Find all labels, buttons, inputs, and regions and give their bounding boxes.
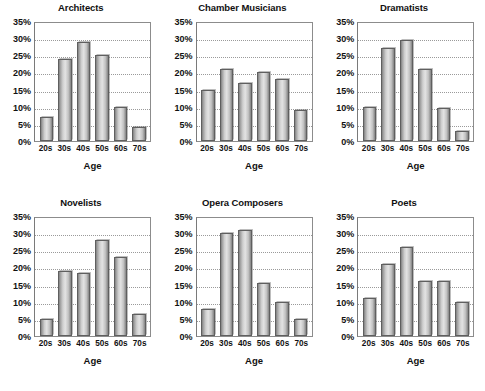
y-tick-label: 35% <box>336 213 354 222</box>
bar-30s[interactable] <box>58 59 72 141</box>
bar-50s[interactable] <box>418 69 432 141</box>
x-tick-label: 40s <box>238 339 252 348</box>
x-axis-labels-chamber-musicians: 20s30s40s50s60s70s <box>196 144 313 153</box>
bar-slot <box>400 40 414 141</box>
bar-20s[interactable] <box>40 117 54 141</box>
x-tick-label: 50s <box>257 339 271 348</box>
bar-20s[interactable] <box>201 309 215 336</box>
plot-area-chamber-musicians <box>196 22 313 142</box>
chart-panel-opera-composers: Opera Composers0%5%10%15%20%25%30%35%20s… <box>162 195 324 391</box>
plot-area-dramatists <box>357 22 474 142</box>
x-axis-title-novelists: Age <box>34 355 151 366</box>
bar-40s[interactable] <box>238 83 252 141</box>
x-tick-label: 60s <box>114 339 128 348</box>
y-tick-label: 20% <box>175 69 193 78</box>
bar-70s[interactable] <box>455 302 469 336</box>
x-tick-label: 30s <box>57 339 71 348</box>
chart-panel-poets: Poets0%5%10%15%20%25%30%35%20s30s40s50s6… <box>323 195 485 391</box>
bar-70s[interactable] <box>132 314 146 336</box>
y-tick-label: 20% <box>13 69 31 78</box>
bar-30s[interactable] <box>381 48 395 141</box>
bar-40s[interactable] <box>400 40 414 141</box>
x-axis-title-dramatists: Age <box>357 160 474 171</box>
plot-wrapper-novelists: 0%5%10%15%20%25%30%35%20s30s40s50s60s70s… <box>0 211 162 339</box>
x-tick-label: 30s <box>57 144 71 153</box>
bar-slot <box>400 247 414 336</box>
x-tick-label: 20s <box>362 144 376 153</box>
y-tick-label: 5% <box>18 120 31 129</box>
bar-20s[interactable] <box>363 298 377 336</box>
bar-70s[interactable] <box>294 319 308 336</box>
bar-slot <box>40 117 54 141</box>
x-tick-label: 70s <box>294 339 308 348</box>
bar-60s[interactable] <box>114 257 128 336</box>
y-tick-label: 20% <box>336 69 354 78</box>
x-tick-label: 20s <box>200 339 214 348</box>
bar-50s[interactable] <box>418 281 432 336</box>
y-tick-label: 20% <box>13 264 31 273</box>
bar-60s[interactable] <box>275 79 289 141</box>
bar-slot <box>455 131 469 141</box>
bar-slot <box>238 230 252 336</box>
bar-20s[interactable] <box>363 107 377 141</box>
bar-slot <box>294 319 308 336</box>
y-tick-label: 30% <box>175 35 193 44</box>
bar-slot <box>418 69 432 141</box>
bar-40s[interactable] <box>77 42 91 141</box>
bar-30s[interactable] <box>58 271 72 336</box>
bar-slot <box>363 107 377 141</box>
x-tick-label: 60s <box>437 144 451 153</box>
bar-slot <box>77 273 91 336</box>
plot-area-novelists <box>34 217 151 337</box>
y-tick-label: 0% <box>180 138 193 147</box>
bar-30s[interactable] <box>220 69 234 141</box>
bar-60s[interactable] <box>114 107 128 141</box>
bar-60s[interactable] <box>437 281 451 336</box>
bar-20s[interactable] <box>201 90 215 141</box>
x-tick-label: 60s <box>276 339 290 348</box>
x-axis-title-architects: Age <box>34 160 151 171</box>
plot-area-poets <box>357 217 474 337</box>
x-tick-label: 60s <box>114 144 128 153</box>
chart-title-opera-composers: Opera Composers <box>162 195 324 211</box>
bar-slot <box>294 110 308 141</box>
y-tick-label: 5% <box>341 120 354 129</box>
bar-30s[interactable] <box>381 264 395 336</box>
bar-slot <box>201 90 215 141</box>
y-tick-label: 15% <box>336 281 354 290</box>
bar-30s[interactable] <box>220 233 234 336</box>
bar-slot <box>220 69 234 141</box>
bar-40s[interactable] <box>77 273 91 336</box>
bar-40s[interactable] <box>400 247 414 336</box>
bar-60s[interactable] <box>437 108 451 141</box>
bar-slot <box>418 281 432 336</box>
plot-wrapper-poets: 0%5%10%15%20%25%30%35%20s30s40s50s60s70s… <box>323 211 485 339</box>
bar-40s[interactable] <box>238 230 252 336</box>
bar-70s[interactable] <box>455 131 469 141</box>
chart-panel-architects: Architects0%5%10%15%20%25%30%35%20s30s40… <box>0 0 162 195</box>
bar-60s[interactable] <box>275 302 289 336</box>
x-axis-labels-poets: 20s30s40s50s60s70s <box>357 339 474 348</box>
bar-50s[interactable] <box>95 240 109 336</box>
bar-70s[interactable] <box>294 110 308 141</box>
y-tick-label: 10% <box>175 298 193 307</box>
x-tick-label: 60s <box>276 144 290 153</box>
bar-70s[interactable] <box>132 127 146 141</box>
x-tick-label: 70s <box>133 339 147 348</box>
y-tick-label: 10% <box>336 298 354 307</box>
y-tick-label: 10% <box>13 298 31 307</box>
plot-wrapper-chamber-musicians: 0%5%10%15%20%25%30%35%20s30s40s50s60s70s… <box>162 16 324 144</box>
bar-slot <box>114 257 128 336</box>
bar-slot <box>381 48 395 141</box>
bar-50s[interactable] <box>257 72 271 141</box>
bar-slot <box>201 309 215 336</box>
x-tick-label: 20s <box>362 339 376 348</box>
x-tick-label: 50s <box>418 144 432 153</box>
bar-20s[interactable] <box>40 319 54 336</box>
y-tick-label: 35% <box>13 18 31 27</box>
bar-slot <box>40 319 54 336</box>
y-tick-label: 10% <box>13 103 31 112</box>
bar-50s[interactable] <box>257 283 271 336</box>
bar-50s[interactable] <box>95 55 109 141</box>
y-tick-label: 15% <box>13 86 31 95</box>
